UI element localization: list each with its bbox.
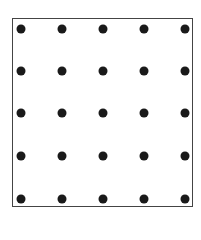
grid-dot [17,109,26,118]
grid-dot [140,195,149,204]
grid-dot [17,152,26,161]
grid-dot [140,67,149,76]
grid-dot [17,25,26,34]
grid-dot [181,109,190,118]
grid-dot [99,195,108,204]
grid-dot [17,195,26,204]
grid-dot [58,25,67,34]
grid-dot [58,67,67,76]
grid-dot [99,109,108,118]
grid-dot [99,67,108,76]
grid-dot [99,152,108,161]
grid-dot [140,109,149,118]
grid-dot [181,195,190,204]
grid-dot [181,152,190,161]
grid-dot [140,152,149,161]
grid-dot [140,25,149,34]
grid-dot [58,109,67,118]
grid-dot [17,67,26,76]
grid-dot [58,152,67,161]
grid-dot [99,25,108,34]
grid-dot [181,67,190,76]
grid-dot [181,25,190,34]
grid-dot [58,195,67,204]
